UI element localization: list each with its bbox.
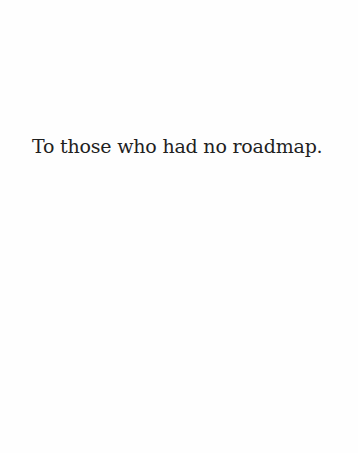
dedication-text: To those who had no roadmap. [32,134,322,158]
dedication-page: To those who had no roadmap. [0,0,358,453]
